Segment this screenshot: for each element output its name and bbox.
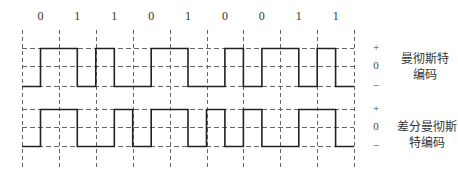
diff-manchester-level-plus: + — [369, 102, 383, 114]
diff-manchester-level-minus: − — [369, 139, 383, 151]
bit-label: 1 — [289, 9, 309, 24]
bit-label: 0 — [215, 9, 235, 24]
manchester-title-line2: 编码 — [392, 67, 458, 83]
bit-label: 0 — [252, 9, 272, 24]
bit-label: 1 — [178, 9, 198, 24]
bit-label: 0 — [141, 9, 161, 24]
signal-waveforms — [22, 49, 354, 147]
manchester-level-zero: 0 — [369, 59, 383, 71]
manchester-level-plus: + — [369, 41, 383, 53]
diff-manchester-title-line2: 特编码 — [386, 135, 458, 151]
manchester-level-minus: − — [369, 79, 383, 91]
bit-label: 1 — [67, 9, 87, 24]
manchester-title: 曼彻斯特 编码 — [392, 51, 458, 83]
bit-label: 1 — [326, 9, 346, 24]
diff-manchester-level-zero: 0 — [369, 120, 383, 132]
manchester-signal — [22, 49, 354, 87]
bit-label: 0 — [30, 9, 50, 24]
manchester-title-line1: 曼彻斯特 — [392, 51, 458, 67]
diff-manchester-title: 差分曼彻斯 特编码 — [392, 119, 458, 151]
bit-label: 1 — [104, 9, 124, 24]
diff-manchester-title-line1: 差分曼彻斯 — [386, 119, 458, 135]
encoding-diagram — [0, 0, 458, 187]
